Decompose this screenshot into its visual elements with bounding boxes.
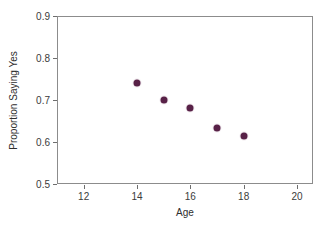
scatter-plot-figure: 0.50.60.70.80.9 1214161820 Proportion Sa… (0, 0, 336, 231)
y-tick-mark (53, 58, 57, 59)
x-tick-mark (297, 185, 298, 189)
data-point (240, 133, 247, 140)
y-tick-label: 0.8 (36, 53, 50, 64)
y-tick-label: 0.5 (36, 179, 50, 190)
y-tick-label: 0.6 (36, 137, 50, 148)
y-tick-label: 0.9 (36, 11, 50, 22)
data-point (214, 125, 221, 132)
y-tick-mark (53, 184, 57, 185)
y-tick-label: 0.7 (36, 95, 50, 106)
x-tick-mark (137, 185, 138, 189)
y-axis-title-text: Proportion Saying Yes (8, 51, 19, 149)
data-point (134, 79, 141, 86)
y-axis-title: Proportion Saying Yes (6, 16, 20, 184)
y-tick-mark (53, 142, 57, 143)
data-point (160, 97, 167, 104)
x-tick-label: 14 (131, 191, 142, 202)
data-point (187, 104, 194, 111)
x-tick-label: 12 (78, 191, 89, 202)
x-tick-label: 16 (185, 191, 196, 202)
x-tick-mark (244, 185, 245, 189)
x-tick-mark (190, 185, 191, 189)
y-tick-mark (53, 100, 57, 101)
x-axis-title: Age (0, 207, 336, 218)
x-axis-title-text: Age (176, 207, 194, 218)
x-tick-label: 20 (291, 191, 302, 202)
y-tick-mark (53, 16, 57, 17)
x-tick-mark (84, 185, 85, 189)
plot-area (57, 16, 313, 184)
x-tick-label: 18 (238, 191, 249, 202)
